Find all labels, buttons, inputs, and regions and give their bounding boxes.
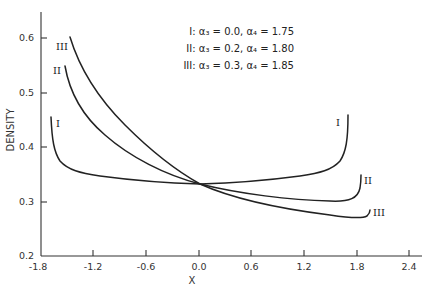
y-tick-label: 0.4 <box>19 141 34 152</box>
x-axis-title: X <box>189 275 196 286</box>
y-axis-title: DENSITY <box>5 108 16 152</box>
x-axis <box>41 250 422 256</box>
x-tick-label: -1.2 <box>84 261 103 272</box>
legend-line-I: I: α₃ = 0.0, α₄ = 1.75 <box>189 26 294 37</box>
y-tick-label: 0.3 <box>19 196 34 207</box>
curve-label-I: I <box>56 118 60 129</box>
curve-label-III-right: III <box>373 207 385 218</box>
x-tick-label: -0.6 <box>137 261 156 272</box>
density-chart: 0.6 0.5 0.4 0.3 0.2 -1.8 -1.2 -0.6 0.0 0… <box>0 0 430 293</box>
y-tick-label: 0.6 <box>19 32 34 43</box>
x-tick-label: 1.2 <box>296 261 311 272</box>
y-tick-label: 0.5 <box>19 87 34 98</box>
curve-label-III: III <box>56 41 68 52</box>
x-tick-label: 2.4 <box>401 261 416 272</box>
curve-label-I-right: I <box>336 117 340 128</box>
x-tick-label: 0.0 <box>191 261 206 272</box>
curve-label-II-right: II <box>364 175 372 186</box>
x-tick-label: 0.6 <box>243 261 258 272</box>
curve-label-II: II <box>53 65 61 76</box>
x-tick-label: -1.8 <box>29 261 48 272</box>
legend-line-III: III: α₃ = 0.3, α₄ = 1.85 <box>183 60 294 71</box>
y-axis <box>41 12 47 256</box>
x-tick-label: 1.8 <box>349 261 364 272</box>
legend-line-II: II: α₃ = 0.2, α₄ = 1.80 <box>186 43 294 54</box>
y-tick-label: 0.2 <box>19 250 34 261</box>
curve-II <box>65 66 361 201</box>
